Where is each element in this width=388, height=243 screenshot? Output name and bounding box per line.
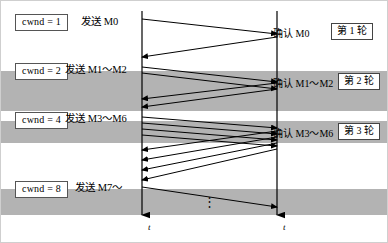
ack-label-0: 确认 M0 bbox=[273, 29, 309, 39]
send-label-0: 发送 M0 bbox=[81, 17, 118, 28]
time-axes-layer bbox=[142, 11, 277, 215]
axis-label-t-1: t bbox=[283, 223, 286, 232]
figure-canvas: cwnd = 1cwnd = 2cwnd = 4cwnd = 8发送 M0发送 … bbox=[0, 0, 388, 243]
vertical-ellipsis: ⋮ bbox=[203, 197, 216, 207]
cwnd-box-8: cwnd = 8 bbox=[15, 181, 68, 198]
send-label-1: 发送 M1～M2 bbox=[65, 65, 127, 76]
cwnd-box-1: cwnd = 1 bbox=[15, 14, 68, 31]
axis-label-t-0: t bbox=[148, 223, 151, 232]
send-label-2: 发送 M3～M6 bbox=[65, 114, 127, 125]
cwnd-box-2: cwnd = 2 bbox=[15, 63, 68, 80]
ack-label-2: 确认 M3～M6 bbox=[273, 129, 333, 139]
round-box-3: 第 3 轮 bbox=[338, 123, 380, 140]
data-M0-arrow bbox=[142, 19, 277, 34]
round-box-1: 第 1 轮 bbox=[331, 23, 373, 40]
cwnd-box-4: cwnd = 4 bbox=[15, 112, 68, 129]
send-label-3: 发送 M7～ bbox=[75, 183, 122, 194]
ack-M0-arrow bbox=[142, 37, 277, 57]
round-box-2: 第 2 轮 bbox=[338, 73, 380, 90]
ack-M6-arrow bbox=[142, 149, 277, 180]
ack-label-1: 确认 M1～M2 bbox=[273, 79, 333, 89]
message-arrows-layer bbox=[142, 19, 277, 207]
